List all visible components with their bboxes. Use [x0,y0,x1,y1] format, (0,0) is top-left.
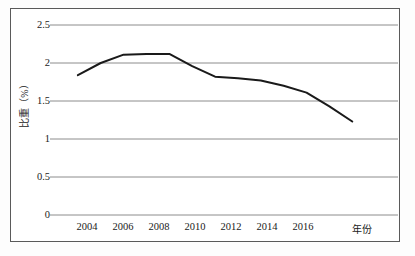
x-tick-label: 2016 [281,221,325,233]
x-axis-title: 年份 [352,221,372,236]
y-tick-label: 2 [10,57,50,68]
chart-figure: 2.5 2 1.5 1 0.5 0 2004 2006 2008 2010 20… [0,0,415,256]
y-axis-title: 比重（%） [16,72,31,136]
y-tick-label: 0 [10,209,50,220]
y-tick-label: 2.5 [10,19,50,30]
chart-frame [10,8,400,242]
y-tick-label: 0.5 [10,171,50,182]
